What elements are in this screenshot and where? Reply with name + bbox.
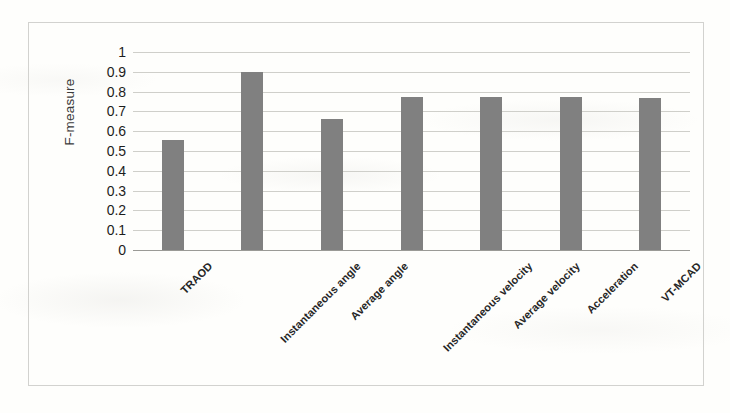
- bar: [560, 97, 582, 250]
- y-axis-tick-label: 0.3: [78, 184, 126, 198]
- gridline: [133, 72, 690, 73]
- bar: [241, 72, 263, 250]
- y-axis-tick-label: 0.9: [78, 65, 126, 79]
- bar: [401, 97, 423, 250]
- bar: [480, 97, 502, 250]
- y-axis-tick-label: 0.4: [78, 164, 126, 178]
- gridline: [133, 92, 690, 93]
- y-axis-tick-label: 0.7: [78, 104, 126, 118]
- x-axis-tick-label: Instantaneous angle: [278, 260, 363, 345]
- bar: [162, 140, 184, 250]
- x-axis-tick-label: Acceleration: [584, 260, 640, 316]
- gridline: [133, 52, 690, 53]
- scanned-page: F-measure 10.90.80.70.60.50.40.30.20.10 …: [0, 0, 730, 413]
- y-axis-tick-label: 0.8: [78, 85, 126, 99]
- gridline: [133, 250, 690, 251]
- y-axis-tick-labels: 10.90.80.70.60.50.40.30.20.10: [78, 44, 126, 258]
- plot-area: [133, 52, 690, 250]
- y-axis-tick-label: 0.5: [78, 144, 126, 158]
- y-axis-title: F-measure: [62, 12, 78, 212]
- x-axis-tick-labels: TRAODInstantaneous angleAverage angleIns…: [133, 252, 690, 382]
- y-axis-tick-label: 0.1: [78, 223, 126, 237]
- y-axis-tick-label: 0.6: [78, 124, 126, 138]
- x-axis-tick-label: TRAOD: [178, 260, 214, 296]
- y-axis-tick-label: 1: [78, 45, 126, 59]
- bar: [639, 98, 661, 250]
- y-axis-tick-label: 0.2: [78, 203, 126, 217]
- y-axis-tick-label: 0: [78, 243, 126, 257]
- bar: [321, 119, 343, 250]
- x-axis-tick-label: Instantaneous velocity: [441, 260, 535, 354]
